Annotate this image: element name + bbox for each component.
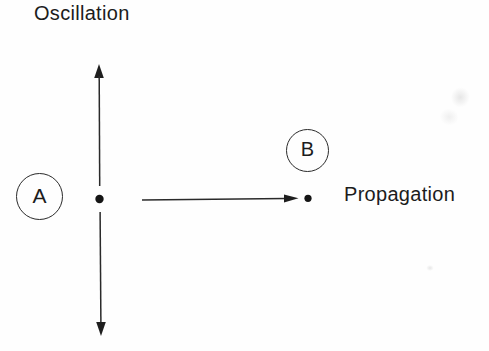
node-a-circle: A [16,173,63,220]
node-b-label: B [301,138,314,161]
diagram-arrows [0,0,489,351]
point-b-dot [304,195,311,202]
arrowhead-up-icon [94,64,104,78]
horizontal-propagation-arrow-icon [142,194,299,202]
vertical-line-lower [100,212,101,324]
node-b-circle: B [286,129,329,172]
arrowhead-down-icon [96,322,106,336]
wave-oscillation-propagation-diagram: Oscillation A B Propagation [0,0,489,351]
arrowhead-right-icon [284,194,299,202]
propagation-label: Propagation [344,183,455,205]
horizontal-line [142,199,286,200]
point-a-dot [95,195,103,203]
vertical-line-upper [99,76,100,186]
node-a-label: A [32,184,46,208]
